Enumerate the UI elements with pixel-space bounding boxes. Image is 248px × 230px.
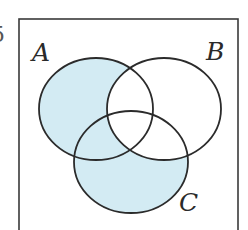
set-a-label: A <box>32 40 50 65</box>
set-c-label: C <box>179 190 198 215</box>
venn-diagram-figure: 5 A B C <box>0 0 248 230</box>
venn-diagram <box>0 0 248 230</box>
set-b-label: B <box>206 39 224 64</box>
